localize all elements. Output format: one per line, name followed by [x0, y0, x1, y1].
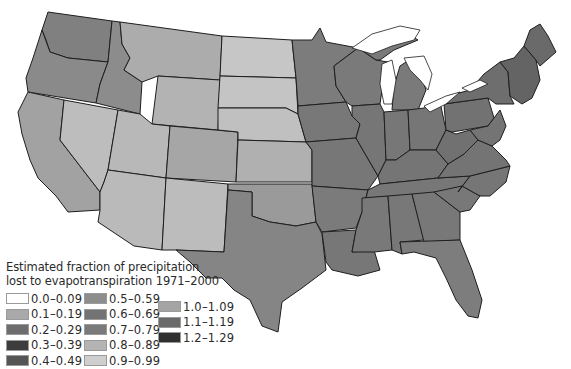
legend-item: 0.9–0.99: [84, 353, 160, 368]
legend-label: 1.1–1.19: [183, 315, 234, 329]
legend-item: 0.2–0.29: [6, 322, 82, 337]
legend-label: 0.1–0.19: [31, 307, 82, 321]
legend-item: 1.2–1.29: [158, 330, 234, 345]
legend-column-3: 1.0–1.09 1.1–1.19 1.2–1.29: [158, 299, 234, 346]
legend-label: 1.2–1.29: [183, 331, 234, 345]
legend-swatch: [84, 355, 107, 366]
legend-title-line-1: Estimated fraction of precipitation: [6, 260, 236, 274]
state-arizona: [98, 170, 166, 250]
legend-label: 0.0–0.09: [31, 292, 82, 306]
legend-item: 0.0–0.09: [6, 291, 82, 306]
legend-item: 0.7–0.79: [84, 322, 160, 337]
legend-label: 0.5–0.59: [109, 292, 160, 306]
legend-swatch: [158, 332, 181, 343]
legend-swatch: [84, 309, 107, 320]
legend-columns: 0.0–0.09 0.1–0.19 0.2–0.29 0.3–0.39 0.4–…: [6, 291, 236, 363]
legend-swatch: [84, 340, 107, 351]
legend-swatch: [6, 340, 29, 351]
legend-swatch: [6, 324, 29, 335]
legend-item: 1.0–1.09: [158, 299, 234, 314]
legend-column-2: 0.5–0.59 0.6–0.69 0.7–0.79 0.8–0.89 0.9–…: [84, 291, 160, 369]
legend-title-line-2: lost to evapotranspiration 1971–2000: [6, 274, 236, 288]
legend-label: 0.3–0.39: [31, 338, 82, 352]
legend-label: 1.0–1.09: [183, 300, 234, 314]
legend-label: 0.2–0.29: [31, 323, 82, 337]
legend-label: 0.7–0.79: [109, 323, 160, 337]
legend-label: 0.4–0.49: [31, 354, 82, 368]
legend-item: 0.6–0.69: [84, 307, 160, 322]
legend-swatch: [6, 309, 29, 320]
state-kansas: [236, 140, 312, 182]
legend-item: 0.3–0.39: [6, 338, 82, 353]
legend-item: 0.1–0.19: [6, 307, 82, 322]
state-iowa: [298, 102, 360, 142]
state-new-mexico: [162, 178, 228, 252]
legend-item: 1.1–1.19: [158, 315, 234, 330]
legend-swatch: [84, 324, 107, 335]
state-colorado: [166, 126, 238, 182]
state-florida: [400, 240, 482, 318]
state-wyoming: [152, 76, 220, 130]
legend-item: 0.8–0.89: [84, 338, 160, 353]
legend-column-1: 0.0–0.09 0.1–0.19 0.2–0.29 0.3–0.39 0.4–…: [6, 291, 82, 369]
legend-label: 0.9–0.99: [109, 354, 160, 368]
legend-swatch: [158, 301, 181, 312]
legend-label: 0.8–0.89: [109, 338, 160, 352]
state-north-dakota: [220, 36, 296, 78]
legend-swatch: [6, 355, 29, 366]
legend-label: 0.6–0.69: [109, 307, 160, 321]
legend-swatch: [84, 293, 107, 304]
legend-swatch: [6, 293, 29, 304]
legend-swatch: [158, 317, 181, 328]
legend-item: 0.4–0.49: [6, 353, 82, 368]
state-montana: [120, 22, 222, 82]
legend-item: 0.5–0.59: [84, 291, 160, 306]
map-legend: Estimated fraction of precipitation lost…: [6, 260, 236, 363]
